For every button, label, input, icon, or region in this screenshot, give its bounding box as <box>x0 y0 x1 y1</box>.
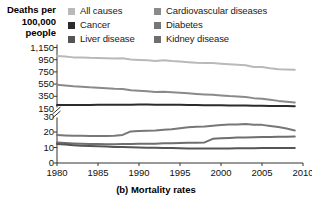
x-axis-tick-label: 1990 <box>128 168 149 178</box>
x-axis-tick-label: 2005 <box>251 168 272 178</box>
figure-caption: (b) Mortality rates <box>0 184 312 195</box>
x-axis-tick-label: 2000 <box>210 168 231 178</box>
x-axis-tick-label: 1995 <box>169 168 190 178</box>
plot-area: 1,1509507505503501503020100 198019851990… <box>0 0 312 180</box>
x-axis-tick-labels: 1980198519901995200020052010 <box>0 0 312 205</box>
x-axis-tick-label: 1985 <box>87 168 108 178</box>
mortality-rates-chart-figure: Deaths per 100,000 people All causes Can… <box>0 0 312 205</box>
x-axis-tick-label: 2010 <box>292 168 312 178</box>
x-axis-tick-label: 1980 <box>46 168 67 178</box>
